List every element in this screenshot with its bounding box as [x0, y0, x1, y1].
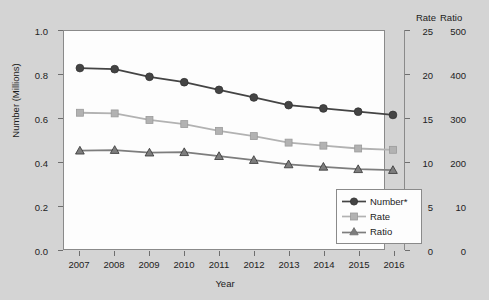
- data-point: [320, 142, 327, 149]
- y-axis-tick-label: 1.0: [22, 26, 48, 37]
- x-axis-tick-mark: [219, 251, 220, 256]
- rate-axis-tick-label: 0: [413, 246, 433, 257]
- x-axis-tick-label: 2012: [237, 259, 271, 270]
- ratio-axis-tick-label: 400: [440, 70, 466, 81]
- data-point: [111, 110, 118, 117]
- right-axis-title-ratio: Ratio: [440, 12, 476, 23]
- data-point: [76, 64, 84, 72]
- series-ratio: [76, 146, 398, 174]
- series-rate: [76, 109, 396, 153]
- data-point: [215, 86, 223, 94]
- x-axis-tick-label: 2008: [97, 259, 131, 270]
- y-axis-title: Number (Millions): [10, 41, 21, 161]
- chart-legend: Number* Rate Ratio: [336, 189, 422, 244]
- x-axis-title: Year: [0, 278, 450, 289]
- legend-label-ratio: Ratio: [367, 226, 392, 237]
- data-point: [285, 139, 292, 146]
- data-point: [320, 105, 328, 113]
- x-axis-tick-label: 2016: [377, 259, 411, 270]
- ratio-axis-tick-label: 10: [440, 202, 466, 213]
- data-point: [355, 145, 362, 152]
- x-axis-tick-label: 2007: [62, 259, 96, 270]
- ratio-axis-tick-label: 0: [440, 246, 466, 257]
- x-axis-tick-mark: [114, 251, 115, 256]
- x-axis-tick-label: 2010: [167, 259, 201, 270]
- x-axis-tick-label: 2013: [272, 259, 306, 270]
- x-axis-tick-mark: [149, 251, 150, 256]
- right-axis-title-rate: Rate: [406, 12, 436, 23]
- right-axis-tick-mark: [405, 250, 410, 251]
- data-point: [389, 111, 397, 119]
- data-point: [146, 73, 154, 81]
- x-axis-tick-mark: [289, 251, 290, 256]
- rate-axis-tick-label: 25: [413, 26, 433, 37]
- rate-axis-tick-label: 20: [413, 70, 433, 81]
- legend-label-number: Number*: [367, 196, 408, 207]
- data-point: [389, 146, 396, 153]
- series-line: [80, 150, 393, 170]
- data-point: [216, 127, 223, 134]
- legend-marker-circle-icon: [341, 195, 367, 208]
- x-axis-tick-label: 2011: [202, 259, 236, 270]
- x-axis-tick-label: 2009: [132, 259, 166, 270]
- ratio-axis-tick-label: 500: [440, 26, 466, 37]
- series-number-: [76, 64, 397, 119]
- ratio-axis-tick-label: 200: [440, 158, 466, 169]
- x-axis-tick-mark: [254, 251, 255, 256]
- x-axis-tick-mark: [394, 251, 395, 256]
- data-point: [250, 94, 258, 102]
- legend-item-number: Number*: [341, 194, 416, 209]
- y-axis-tick-label: 0.6: [22, 114, 48, 125]
- legend-label-rate: Rate: [367, 211, 390, 222]
- y-axis-tick-label: 0.4: [22, 158, 48, 169]
- data-point: [285, 101, 293, 109]
- y-axis-tick-label: 0.0: [22, 246, 48, 257]
- y-axis-tick-mark: [58, 250, 63, 251]
- right-axis-tick-mark: [405, 118, 410, 119]
- data-point: [354, 108, 362, 116]
- x-axis-tick-mark: [79, 251, 80, 256]
- data-point: [146, 116, 153, 123]
- x-axis-tick-mark: [184, 251, 185, 256]
- series-group: [76, 64, 398, 173]
- x-axis-tick-label: 2015: [342, 259, 376, 270]
- right-axis-tick-mark: [405, 30, 410, 31]
- series-line: [80, 68, 393, 115]
- legend-marker-triangle-icon: [341, 225, 367, 238]
- legend-marker-square-icon: [341, 210, 367, 223]
- x-axis-tick-mark: [324, 251, 325, 256]
- right-axis-tick-mark: [405, 74, 410, 75]
- data-point: [250, 133, 257, 140]
- y-axis-tick-label: 0.8: [22, 70, 48, 81]
- rate-axis-tick-label: 10: [413, 158, 433, 169]
- series-line: [80, 113, 393, 150]
- data-point: [180, 78, 188, 86]
- legend-item-ratio: Ratio: [341, 224, 416, 239]
- x-axis-tick-label: 2014: [307, 259, 341, 270]
- rate-axis-tick-label: 15: [413, 114, 433, 125]
- legend-item-rate: Rate: [341, 209, 416, 224]
- x-axis-tick-mark: [359, 251, 360, 256]
- right-axis-tick-mark: [405, 162, 410, 163]
- ratio-axis-tick-label: 300: [440, 114, 466, 125]
- y-axis-tick-label: 0.2: [22, 202, 48, 213]
- data-point: [111, 65, 119, 73]
- chart-figure: 1.0 0.8 0.6 0.4 0.2 0.0 Number (Millions…: [0, 0, 489, 300]
- data-point: [181, 121, 188, 128]
- data-point: [76, 109, 83, 116]
